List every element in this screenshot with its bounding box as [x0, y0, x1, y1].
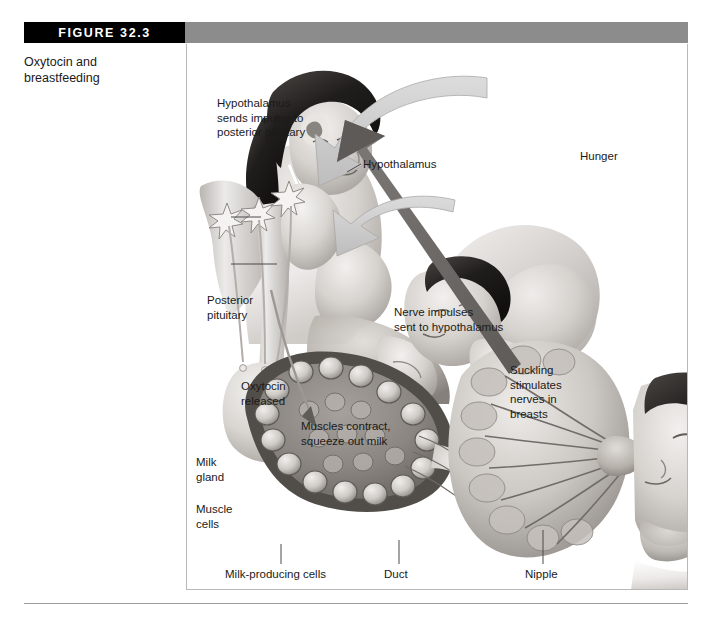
figure-root: FIGURE 32.3 Oxytocin and breastfeeding: [0, 0, 710, 624]
label-suckling-stimulates: Suckling stimulates nerves in breasts: [510, 363, 562, 421]
label-nerve-impulses: Nerve impulses sent to hypothalamus: [394, 305, 503, 334]
figure-number-tag: FIGURE 32.3: [24, 22, 185, 43]
bottom-divider: [24, 603, 688, 604]
breast-suckling-illustration: [448, 341, 688, 590]
label-milk-gland: Milk gland: [196, 455, 224, 484]
label-hunger: Hunger: [580, 149, 618, 164]
figure-caption: Oxytocin and breastfeeding: [24, 54, 172, 86]
label-posterior-pituitary: Posterior pituitary: [207, 293, 253, 322]
label-hypothalamus: Hypothalamus: [363, 157, 437, 172]
label-muscle-cells: Muscle cells: [196, 502, 232, 531]
label-hypothalamus-sends-impulse: Hypothalamus sends impulse to posterior …: [217, 96, 305, 140]
label-muscles-contract: Muscles contract, squeeze out milk: [301, 419, 390, 448]
label-nipple: Nipple: [525, 567, 558, 582]
label-duct: Duct: [384, 567, 408, 582]
header-gray-bar: [185, 22, 688, 43]
label-milk-producing-cells: Milk-producing cells: [225, 567, 326, 582]
label-oxytocin-released: Oxytocin released: [241, 379, 286, 408]
figure-header: FIGURE 32.3: [24, 22, 688, 43]
illustration-panel: Hypothalamus sends impulse to posterior …: [186, 44, 688, 590]
